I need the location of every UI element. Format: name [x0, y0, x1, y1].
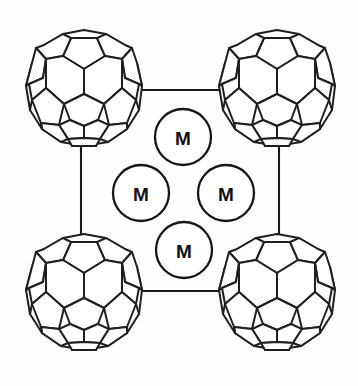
fullerene-bottom-right[interactable] — [219, 234, 335, 350]
metal-label-left: M — [133, 184, 149, 205]
diagram-canvas: M M M M — [0, 0, 358, 386]
metal-atom-right[interactable]: M — [198, 165, 254, 221]
metal-atom-top[interactable]: M — [155, 109, 211, 165]
metal-label-top: M — [175, 128, 191, 149]
fullerene-group — [26, 30, 335, 350]
fullerene-top-left[interactable] — [26, 30, 142, 146]
fullerene-cluster-diagram: M M M M — [0, 0, 358, 386]
metal-label-bottom: M — [176, 241, 192, 262]
fullerene-top-right[interactable] — [219, 30, 335, 146]
metal-atom-bottom[interactable]: M — [156, 222, 212, 278]
fullerene-bottom-left[interactable] — [26, 234, 142, 350]
metal-atom-left[interactable]: M — [113, 165, 169, 221]
metal-label-right: M — [218, 184, 234, 205]
